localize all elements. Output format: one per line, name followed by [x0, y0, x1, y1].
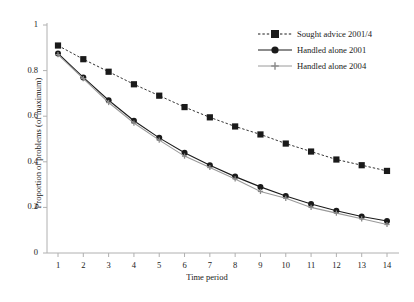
legend-label-handled-alone-2001: Handled alone 2001 — [292, 46, 366, 55]
legend-label-handled-alone-2004: Handled alone 2004 — [292, 62, 366, 71]
figure-caption — [0, 290, 414, 301]
legend-item-handled-alone-2001: Handled alone 2001 — [258, 42, 372, 58]
series-2 — [55, 51, 390, 225]
legend-key-circle-solid — [258, 43, 292, 57]
legend-item-handled-alone-2004: Handled alone 2004 — [258, 58, 372, 74]
series-3 — [55, 52, 389, 227]
figure-chart: Proportion of problems (of maximum) Time… — [0, 0, 414, 302]
legend-key-square-dashed — [258, 27, 292, 41]
legend-key-plus-solid — [258, 59, 292, 73]
chart-legend: Sought advice 2001/4 Handled alone 2001 … — [258, 26, 372, 74]
legend-item-sought-advice: Sought advice 2001/4 — [258, 26, 372, 42]
legend-label-sought-advice: Sought advice 2001/4 — [292, 30, 372, 39]
